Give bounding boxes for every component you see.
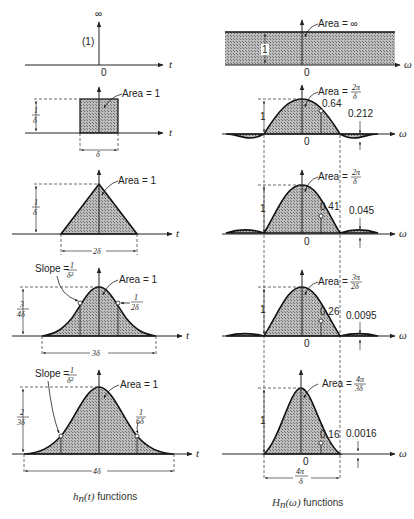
slope-den: δ² xyxy=(67,271,74,280)
right-panel-sinc2: 1 0.41 0.045 Area = 2π δ 0 ω xyxy=(222,168,407,248)
area-label: Area = xyxy=(318,276,348,287)
t-axis-label: t xyxy=(169,58,173,70)
height-den: δ xyxy=(33,116,37,125)
t-axis-label: t xyxy=(176,227,180,239)
origin-label: 0 xyxy=(101,67,107,78)
marker-value: 0.64 xyxy=(322,98,342,109)
width-label: 2δ xyxy=(93,247,101,256)
left-panel-cubic: 2 3δ 4δ Slope = 1 δ² 1 6δ Area = 1 t xyxy=(12,366,200,476)
width-label: 4δ xyxy=(93,467,101,476)
area-num: 3π xyxy=(351,273,361,282)
origin-label: 0 xyxy=(304,136,310,147)
slope-den: δ² xyxy=(67,376,74,385)
slope-num: 1 xyxy=(70,366,74,375)
marker-value: 0.16 xyxy=(320,429,340,440)
left-panel-impulse: ∞ (1) 0 t xyxy=(25,8,173,78)
height-num: 1 xyxy=(34,106,38,115)
height-den: 4δ xyxy=(17,310,25,319)
point-den: 2δ xyxy=(131,303,139,312)
height-label: 1 xyxy=(260,203,266,214)
area-label: Area = xyxy=(318,171,348,182)
marker-value: 0.26 xyxy=(320,306,340,317)
sidelobe-value: 0.0016 xyxy=(346,428,377,439)
right-panel-sinc3: 1 0.26 0.0095 Area = 3π 2δ 0 ω xyxy=(222,270,407,350)
t-axis-label: t xyxy=(196,447,200,459)
width-label: δ xyxy=(96,150,100,159)
point-num: 1 xyxy=(139,408,143,417)
area-den: δ xyxy=(353,92,357,101)
right-panel-sinc4: 1 0.16 0.0016 Area = 4π 3δ 0 ω 4π δ xyxy=(222,370,407,486)
area-num: 4π xyxy=(356,375,365,384)
area-label: Area = 1 xyxy=(122,88,161,99)
slope-num: 1 xyxy=(70,261,74,270)
right-column-caption: Hn(ω) functions xyxy=(271,496,343,510)
marker-value: 0.41 xyxy=(320,201,340,212)
width-label: 3δ xyxy=(91,349,100,358)
point-num: 1 xyxy=(134,293,138,302)
right-panel-flat: 1 Area = ∞ 0 ω xyxy=(225,18,412,78)
sidelobe-value: 0.212 xyxy=(348,108,373,119)
omega-axis-label: ω xyxy=(404,58,412,70)
height-num: 3 xyxy=(19,300,24,309)
height-num: 1 xyxy=(34,198,38,207)
sidelobe-value: 0.045 xyxy=(349,205,374,216)
area-label: Area = 1 xyxy=(118,175,157,186)
t-axis-label: t xyxy=(169,126,173,138)
height-den: 3δ xyxy=(16,418,25,427)
height-label: 1 xyxy=(262,44,268,55)
height-num: 2 xyxy=(20,408,24,417)
left-panel-rect: 1 δ δ Area = 1 t xyxy=(25,87,173,159)
right-panel-sinc: 1 0.64 0.212 Area = 2π δ 0 ω xyxy=(222,83,407,150)
bottom-width-den: δ xyxy=(299,477,303,486)
area-label: Area = ∞ xyxy=(318,18,358,29)
area-label: Area = xyxy=(318,86,348,97)
omega-axis-label: ω xyxy=(399,329,407,341)
omega-axis-label: ω xyxy=(399,127,407,139)
area-label: Area = 1 xyxy=(120,379,159,390)
area-den: 3δ xyxy=(354,384,363,393)
slope-label: Slope = xyxy=(35,263,69,274)
omega-axis-label: ω xyxy=(399,227,407,239)
origin-label: 0 xyxy=(303,456,309,467)
t-axis-label: t xyxy=(186,329,190,341)
sinc4-curve xyxy=(264,388,340,454)
area-num: 2π xyxy=(352,168,361,177)
origin-label: 0 xyxy=(304,236,310,247)
omega-axis-label: ω xyxy=(399,447,407,459)
left-panel-triangle: 1 δ 2δ Area = 1 t xyxy=(12,170,180,256)
area-label: Area = xyxy=(322,378,352,389)
height-label: 1 xyxy=(260,304,266,315)
area-den: δ xyxy=(353,177,357,186)
bottom-width-num: 4π xyxy=(296,467,305,476)
area-den: 2δ xyxy=(351,282,359,291)
height-label: 1 xyxy=(260,111,266,122)
area-num: 2π xyxy=(352,83,361,92)
sidelobe-value: 0.0095 xyxy=(346,310,377,321)
area-label: Area = 1 xyxy=(119,274,158,285)
height-label: 1 xyxy=(260,415,266,426)
figure-canvas: ∞ (1) 0 t 1 δ δ Area = 1 t 1 δ 2δ xyxy=(0,0,414,519)
impulse-weight-label: (1) xyxy=(82,36,94,47)
height-den: δ xyxy=(33,208,37,217)
left-panel-quadratic: 3 4δ 3δ Slope = 1 δ² 1 2δ Area = 1 t xyxy=(12,261,190,358)
origin-label: 0 xyxy=(304,67,310,78)
infinity-label: ∞ xyxy=(95,8,102,19)
left-column-caption: hn(t) functions xyxy=(73,490,137,504)
slope-label: Slope = xyxy=(35,368,69,379)
origin-label: 0 xyxy=(304,338,310,349)
